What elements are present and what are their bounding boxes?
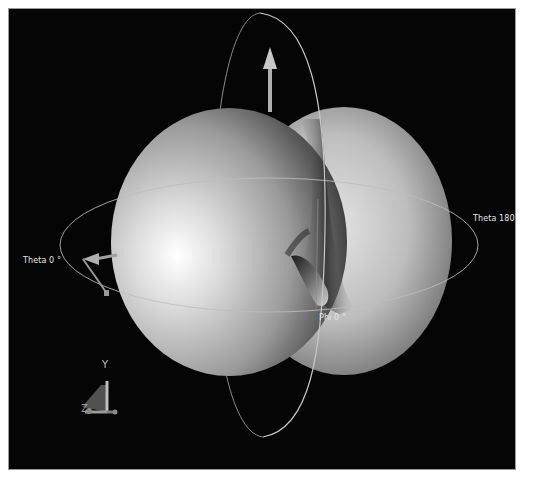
theta-180-label: Theta 180 ° bbox=[473, 214, 516, 223]
y-arrow-head bbox=[263, 47, 277, 69]
phi-0-label: Phi 0 ° bbox=[319, 313, 346, 322]
3d-viewport[interactable]: Theta 0 ° Theta 180 ° Phi 0 ° Y Z bbox=[8, 8, 516, 470]
axis-y-label: Y bbox=[102, 359, 108, 370]
radiation-pattern-scene bbox=[9, 9, 516, 470]
axis-z-label: Z bbox=[81, 403, 88, 414]
theta-0-label: Theta 0 ° bbox=[23, 256, 61, 265]
